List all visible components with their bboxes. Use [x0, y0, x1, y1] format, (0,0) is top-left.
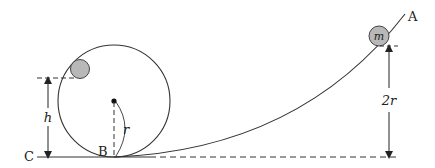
ball-in-loop	[71, 60, 90, 79]
label-start-height-2r: 2r	[381, 93, 397, 108]
label-point-c: C	[24, 149, 34, 164]
label-radius-r: r	[123, 122, 130, 137]
label-mass: m	[374, 30, 384, 43]
label-point-a: A	[407, 9, 418, 24]
label-height-h: h	[44, 110, 52, 125]
loop-track-diagram: A B C m h r 2r	[0, 0, 435, 168]
label-point-b: B	[98, 144, 108, 159]
